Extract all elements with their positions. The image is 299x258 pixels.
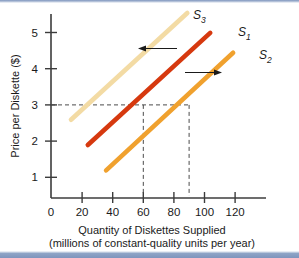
supply-curve-s3	[71, 13, 187, 120]
shift-left-arrow-icon	[138, 45, 177, 51]
y-tick-label-4: 4	[32, 63, 39, 75]
svg-text:2: 2	[266, 55, 272, 65]
svg-text:S: S	[238, 25, 246, 39]
x-axis-title: Quantity of Diskettes Supplied	[78, 224, 225, 236]
y-axis-tick-labels: 5 4 3 2 1	[32, 27, 39, 184]
curve-label-s1: S 1	[238, 25, 251, 42]
x-tick-label-80: 80	[168, 206, 181, 218]
y-axis-title: Price per Diskette ($)	[9, 54, 21, 157]
curve-label-s3: S 3	[193, 8, 206, 25]
x-tick-label-120: 120	[226, 206, 245, 218]
svg-text:1: 1	[246, 32, 251, 42]
x-tick-label-60: 60	[137, 206, 150, 218]
y-tick-label-3: 3	[32, 99, 38, 111]
y-tick-label-5: 5	[32, 27, 38, 39]
x-tick-label-100: 100	[195, 206, 214, 218]
x-tick-label-20: 20	[76, 206, 89, 218]
chart-canvas: 5 4 3 2 1 0 20 40 60 80 100 120	[0, 0, 299, 258]
x-tick-label-40: 40	[106, 206, 119, 218]
svg-text:3: 3	[201, 15, 206, 25]
y-tick-label-1: 1	[32, 171, 38, 183]
svg-text:S: S	[259, 48, 267, 62]
x-axis-tick-labels: 0 20 40 60 80 100 120	[48, 206, 245, 218]
x-axis-subtitle: (millions of constant-quality units per …	[49, 237, 255, 249]
svg-text:S: S	[193, 8, 201, 22]
y-tick-label-2: 2	[32, 135, 38, 147]
supply-shift-chart: 5 4 3 2 1 0 20 40 60 80 100 120	[0, 0, 299, 258]
curve-label-s2: S 2	[259, 48, 272, 65]
x-tick-label-0: 0	[48, 206, 54, 218]
